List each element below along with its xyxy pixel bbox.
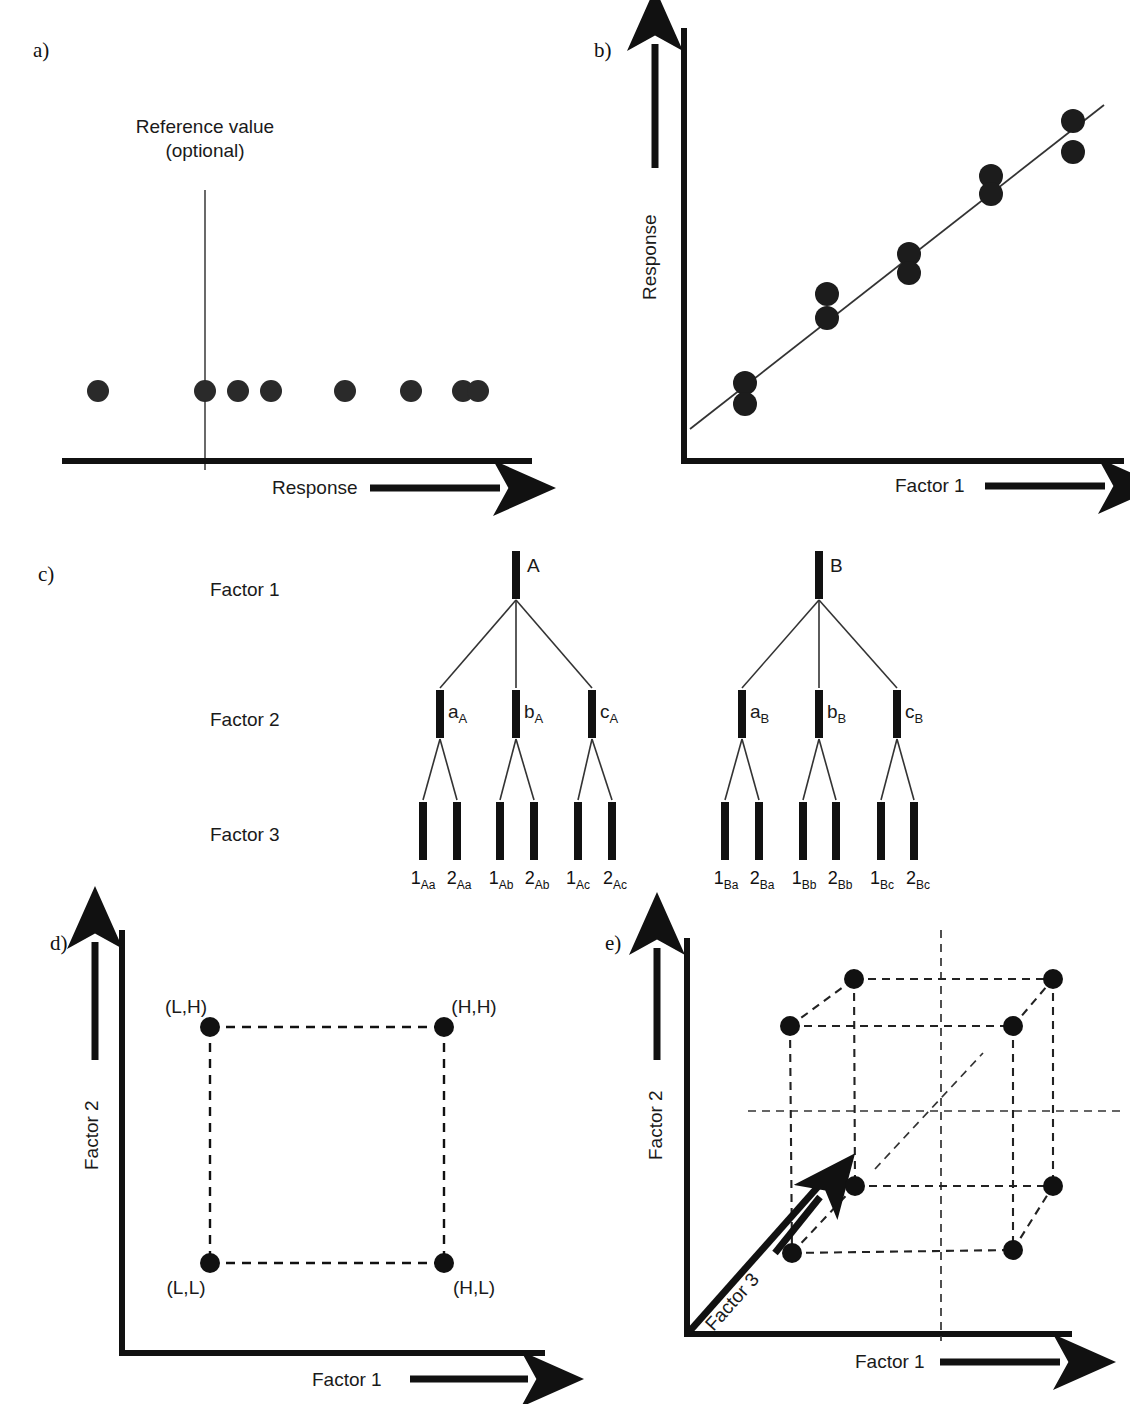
panel-e-x-axis-label: Factor 1 — [855, 1350, 925, 1374]
panel-c-row-label-factor3: Factor 3 — [210, 823, 280, 847]
leaf-label-1Bb: 1Bb — [792, 868, 817, 892]
panel-a-graphics — [62, 190, 532, 488]
panel-c-connectors-B2 — [725, 739, 914, 800]
panel-d-square-edges — [210, 1027, 444, 1263]
panel-e-reference-guides — [748, 930, 1124, 1341]
leaf-label-2Ab-num: 2 — [525, 868, 535, 888]
panel-c-connectors-B — [742, 600, 897, 688]
panel-e-design-points — [780, 969, 1063, 1263]
design-point-label-HL: (H,L) — [453, 1276, 495, 1300]
panel-letter-c: c) — [38, 562, 54, 587]
node-label-root-A: A — [527, 554, 540, 578]
panel-c-leaf-bars-B — [721, 802, 918, 860]
leaf-label-1Ba-num: 1 — [714, 868, 724, 888]
leaf-label-1Ac-sub: Ac — [576, 878, 590, 892]
leaf-label-1Bc-num: 1 — [870, 868, 880, 888]
node-label-bA: bA — [524, 700, 543, 727]
node-label-cB: cB — [905, 700, 923, 727]
leaf-label-1Ab-num: 1 — [489, 868, 499, 888]
panel-d-y-axis-label: Factor 2 — [80, 1100, 104, 1170]
node-label-cA-sub: A — [610, 711, 619, 726]
node-label-aB-sub: B — [761, 711, 770, 726]
node-bar-bA — [512, 690, 520, 738]
leaf-label-1Aa: 1Aa — [411, 868, 436, 892]
node-label-cA: cA — [600, 700, 618, 727]
panel-d-x-axis-label: Factor 1 — [312, 1368, 382, 1392]
node-label-bB-sub: B — [838, 711, 847, 726]
leaf-label-2Bc-num: 2 — [906, 868, 916, 888]
leaf-label-2Bb-sub: Bb — [838, 878, 853, 892]
leaf-label-1Ab-sub: Ab — [499, 878, 514, 892]
node-label-aA: aA — [448, 700, 467, 727]
reference-value-label-line2: (optional) — [165, 139, 244, 163]
leaf-label-1Bb-sub: Bb — [802, 878, 817, 892]
panel-letter-a: a) — [33, 38, 49, 63]
panel-a-axis-label: Response — [272, 476, 358, 500]
panel-letter-d: d) — [50, 931, 68, 956]
leaf-label-1Aa-sub: Aa — [421, 878, 436, 892]
leaf-label-2Ba-num: 2 — [750, 868, 760, 888]
leaf-label-2Bb: 2Bb — [828, 868, 853, 892]
design-point-label-LH: (L,H) — [165, 995, 207, 1019]
leaf-label-2Ac-num: 2 — [603, 868, 613, 888]
node-label-aB-base: a — [750, 701, 761, 722]
panel-letter-b: b) — [594, 38, 612, 63]
panel-b-x-axis-label: Factor 1 — [895, 474, 965, 498]
leaf-label-1Bb-num: 1 — [792, 868, 802, 888]
leaf-label-2Ba: 2Ba — [750, 868, 775, 892]
panel-c-row-label-factor1: Factor 1 — [210, 578, 280, 602]
node-label-cB-base: c — [905, 701, 915, 722]
leaf-label-2Ac: 2Ac — [603, 868, 627, 892]
leaf-label-2Bc-sub: Bc — [916, 878, 930, 892]
panel-letter-e: e) — [605, 931, 621, 956]
node-bar-root-B — [815, 551, 823, 599]
leaf-label-2Bb-num: 2 — [828, 868, 838, 888]
leaf-label-1Ba: 1Ba — [714, 868, 739, 892]
node-label-cA-base: c — [600, 701, 610, 722]
panel-b-y-axis-label: Response — [638, 214, 662, 300]
node-label-bB-base: b — [827, 701, 838, 722]
leaf-label-2Aa-sub: Aa — [457, 878, 472, 892]
leaf-label-1Ba-sub: Ba — [724, 878, 739, 892]
leaf-label-1Aa-num: 1 — [411, 868, 421, 888]
figure-graphics — [0, 0, 1130, 1404]
reference-value-label-line1: Reference value — [136, 115, 274, 139]
panel-b-data-points — [733, 109, 1085, 416]
node-bar-aB — [738, 690, 746, 738]
node-label-root-B: B — [830, 554, 843, 578]
leaf-label-2Ba-sub: Ba — [760, 878, 775, 892]
leaf-label-1Ac: 1Ac — [566, 868, 590, 892]
panel-c-connectors-A — [440, 600, 592, 688]
leaf-label-2Ab-sub: Ab — [535, 878, 550, 892]
leaf-label-2Bc: 2Bc — [906, 868, 930, 892]
leaf-label-2Ac-sub: Ac — [613, 878, 627, 892]
node-label-bB: bB — [827, 700, 846, 727]
node-label-aA-base: a — [448, 701, 459, 722]
node-bar-aA — [436, 690, 444, 738]
node-label-cB-sub: B — [915, 711, 924, 726]
panel-b-graphics — [655, 28, 1124, 486]
panel-c-connectors-A2 — [423, 739, 612, 800]
panel-c-leaf-bars-A — [419, 802, 616, 860]
leaf-label-2Ab: 2Ab — [525, 868, 550, 892]
node-label-aA-sub: A — [459, 711, 468, 726]
panel-c-row-label-factor2: Factor 2 — [210, 708, 280, 732]
leaf-label-1Bc-sub: Bc — [880, 878, 894, 892]
design-point-label-LL: (L,L) — [166, 1276, 205, 1300]
node-label-bA-base: b — [524, 701, 535, 722]
node-bar-cA — [588, 690, 596, 738]
node-label-bA-sub: A — [535, 711, 544, 726]
panel-a-data-points — [87, 380, 489, 402]
node-bar-cB — [893, 690, 901, 738]
leaf-label-1Bc: 1Bc — [870, 868, 894, 892]
panel-e-y-axis-label: Factor 2 — [644, 1090, 668, 1160]
node-bar-root-A — [512, 551, 520, 599]
design-point-label-HH: (H,H) — [451, 995, 496, 1019]
node-label-aB: aB — [750, 700, 769, 727]
figure-canvas: a) b) c) d) e) Reference value (optional… — [0, 0, 1130, 1404]
node-bar-bB — [815, 690, 823, 738]
leaf-label-2Aa: 2Aa — [447, 868, 472, 892]
leaf-label-2Aa-num: 2 — [447, 868, 457, 888]
panel-d-design-points — [200, 1017, 454, 1273]
leaf-label-1Ac-num: 1 — [566, 868, 576, 888]
